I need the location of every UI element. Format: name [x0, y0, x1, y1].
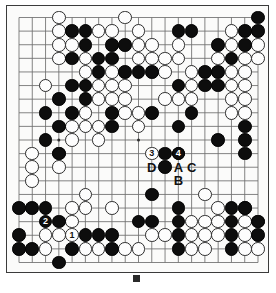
- white-stone: [185, 215, 199, 229]
- white-stone: [105, 79, 119, 93]
- black-stone: [251, 228, 265, 242]
- black-stone: [251, 215, 265, 229]
- point-label-A: A: [171, 160, 185, 174]
- black-stone: [172, 201, 186, 215]
- white-stone: [185, 242, 199, 256]
- black-stone: [172, 120, 186, 134]
- black-stone: [92, 228, 106, 242]
- white-stone: [145, 228, 159, 242]
- white-stone: [92, 24, 106, 38]
- white-stone: [92, 120, 106, 134]
- black-stone: [52, 147, 66, 161]
- black-stone: [158, 147, 172, 161]
- black-stone: [79, 92, 93, 106]
- black-stone: [198, 79, 212, 93]
- black-stone: [172, 147, 186, 161]
- white-stone: [145, 38, 159, 52]
- black-stone: [79, 38, 93, 52]
- white-stone: [238, 65, 252, 79]
- black-stone: [251, 24, 265, 38]
- black-stone: [39, 201, 53, 215]
- black-stone: [238, 120, 252, 134]
- white-stone: [118, 106, 132, 120]
- white-stone: [79, 52, 93, 66]
- white-stone: [52, 228, 66, 242]
- white-stone: [105, 92, 119, 106]
- black-stone: [12, 201, 26, 215]
- white-stone: [132, 52, 146, 66]
- white-stone: [132, 120, 146, 134]
- black-stone: [211, 133, 225, 147]
- black-stone: [12, 242, 26, 256]
- black-stone: [225, 52, 239, 66]
- black-stone: [238, 133, 252, 147]
- white-stone: [25, 174, 39, 188]
- white-stone: [225, 24, 239, 38]
- white-stone: [198, 215, 212, 229]
- white-stone: [105, 201, 119, 215]
- white-stone: [92, 133, 106, 147]
- white-stone: [118, 79, 132, 93]
- white-stone: [251, 38, 265, 52]
- go-board-container: 1234DACB: [6, 5, 271, 275]
- black-stone: [105, 242, 119, 256]
- white-stone: [92, 79, 106, 93]
- black-stone: [225, 228, 239, 242]
- white-stone: [238, 242, 252, 256]
- white-stone: [118, 92, 132, 106]
- black-stone: [132, 215, 146, 229]
- white-stone: [211, 52, 225, 66]
- black-stone: [105, 52, 119, 66]
- white-stone: [145, 52, 159, 66]
- black-stone: [118, 38, 132, 52]
- stones-layer: 1234DACB: [7, 6, 268, 272]
- black-stone: [65, 24, 79, 38]
- black-stone: [132, 65, 146, 79]
- go-board[interactable]: 1234DACB: [6, 5, 269, 273]
- white-stone: [79, 201, 93, 215]
- black-stone: [238, 38, 252, 52]
- white-stone: [225, 38, 239, 52]
- white-stone: [185, 228, 199, 242]
- white-stone: [92, 92, 106, 106]
- black-stone: [145, 106, 159, 120]
- go-problem-figure: 1234DACB: [0, 0, 276, 293]
- black-stone: [79, 79, 93, 93]
- black-stone: [145, 65, 159, 79]
- black-stone: [185, 106, 199, 120]
- white-stone: [25, 147, 39, 161]
- black-stone: [79, 228, 93, 242]
- black-stone: [225, 201, 239, 215]
- black-stone: [198, 65, 212, 79]
- white-stone: [65, 38, 79, 52]
- white-stone: [198, 228, 212, 242]
- black-stone: [211, 79, 225, 93]
- white-stone: [158, 65, 172, 79]
- white-stone: [79, 242, 93, 256]
- white-stone: [211, 215, 225, 229]
- white-stone: [65, 133, 79, 147]
- black-stone: [251, 11, 265, 25]
- black-stone: [172, 242, 186, 256]
- black-stone: [79, 24, 93, 38]
- black-stone: [25, 201, 39, 215]
- black-stone: [118, 65, 132, 79]
- black-stone: [105, 106, 119, 120]
- point-label-D: D: [145, 160, 159, 174]
- white-stone: [65, 120, 79, 134]
- white-stone: [185, 65, 199, 79]
- white-stone: [25, 160, 39, 174]
- white-stone: [225, 65, 239, 79]
- white-stone: [238, 106, 252, 120]
- black-stone: [105, 228, 119, 242]
- white-stone: [251, 242, 265, 256]
- black-stone: [52, 120, 66, 134]
- white-stone: [39, 79, 53, 93]
- black-stone: [211, 65, 225, 79]
- black-stone: [39, 106, 53, 120]
- white-stone: [79, 188, 93, 202]
- white-stone: [65, 215, 79, 229]
- white-stone: [172, 52, 186, 66]
- white-stone: [172, 92, 186, 106]
- white-stone: [158, 52, 172, 66]
